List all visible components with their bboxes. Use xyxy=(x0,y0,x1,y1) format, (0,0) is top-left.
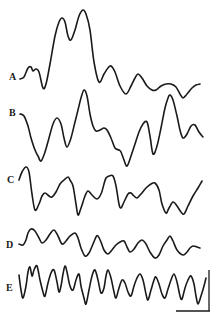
trace-label-a: A xyxy=(9,71,17,82)
trace-d xyxy=(19,229,200,258)
trace-b xyxy=(20,90,203,166)
trace-label-c: C xyxy=(7,174,14,185)
traces-group xyxy=(19,10,206,304)
trace-label-b: B xyxy=(9,107,16,118)
scale-bar xyxy=(176,270,210,311)
trace-c xyxy=(19,167,202,215)
trace-a xyxy=(20,10,200,98)
waveform-figure: ABCDE xyxy=(0,0,213,319)
trace-label-e: E xyxy=(6,282,13,293)
trace-e xyxy=(19,266,206,305)
trace-label-d: D xyxy=(6,239,13,250)
labels-group: ABCDE xyxy=(6,71,17,293)
